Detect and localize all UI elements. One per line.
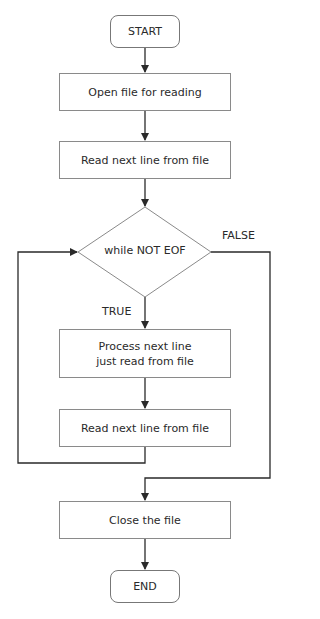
read-first-line-label: Read next line from file	[81, 153, 209, 168]
end-label: END	[133, 579, 157, 594]
end-node: END	[110, 570, 180, 603]
open-file-node: Open file for reading	[59, 73, 231, 111]
close-file-label: Close the file	[109, 513, 181, 528]
process-line-label-2: just read from file	[96, 354, 194, 369]
read-first-line-node: Read next line from file	[59, 141, 231, 179]
process-line-node: Process next line just read from file	[59, 329, 231, 378]
start-node: START	[110, 15, 180, 48]
loop-condition-label: while NOT EOF	[95, 244, 195, 257]
false-label: FALSE	[222, 229, 255, 242]
start-label: START	[128, 24, 162, 39]
open-file-label: Open file for reading	[88, 85, 202, 100]
read-next-line-node: Read next line from file	[59, 409, 231, 447]
process-line-label-1: Process next line	[99, 339, 192, 354]
read-next-line-label: Read next line from file	[81, 421, 209, 436]
true-label: TRUE	[102, 305, 131, 318]
close-file-node: Close the file	[59, 501, 231, 539]
